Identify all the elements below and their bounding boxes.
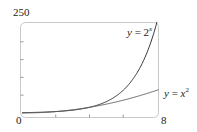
legend-label-quadratic: y = x2 [164, 88, 189, 99]
plot-area [0, 0, 197, 132]
legend-label-exponential: y = 2x [127, 27, 152, 38]
y-max-tick-label: 250 [13, 7, 30, 18]
axis-ticks [21, 42, 124, 118]
origin-tick-label: 0 [16, 115, 22, 126]
curve-x-squared [22, 90, 159, 113]
x-max-tick-label: 8 [161, 115, 167, 126]
